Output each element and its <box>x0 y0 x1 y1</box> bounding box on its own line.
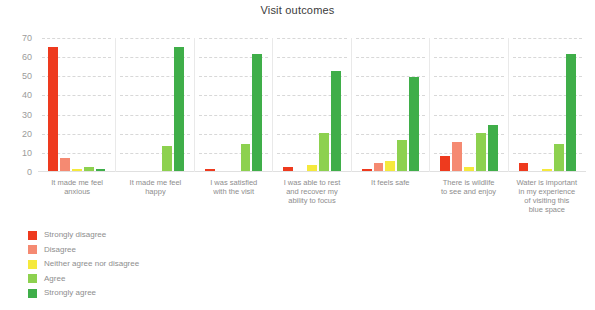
legend-swatch-icon <box>28 289 37 298</box>
panel-baseline <box>116 171 193 172</box>
category-label: There is wildlifeto see and enjoy <box>429 178 507 224</box>
panel-baseline <box>352 171 429 172</box>
legend-label: Agree <box>44 275 65 283</box>
legend-label: Strongly disagree <box>44 231 106 239</box>
bar[interactable] <box>241 144 251 171</box>
bar[interactable] <box>331 71 341 171</box>
bar[interactable] <box>283 167 293 171</box>
panel-baseline <box>509 171 586 172</box>
bar[interactable] <box>84 167 94 171</box>
y-tick-label: 0 <box>27 168 32 177</box>
y-axis: 010203040506070 <box>0 38 36 172</box>
category-label-line: I was satisfied <box>197 178 271 187</box>
bar[interactable] <box>519 163 529 171</box>
legend-item[interactable]: Agree <box>28 272 139 287</box>
category-label-line: It made me feel <box>118 178 192 187</box>
category-label-line: It feels safe <box>353 178 427 187</box>
bar[interactable] <box>488 125 498 171</box>
bar[interactable] <box>409 77 419 171</box>
category-label-line: It made me feel <box>40 178 114 187</box>
bar[interactable] <box>96 169 106 171</box>
category-label-line: in my experience <box>510 187 584 196</box>
legend-swatch-icon <box>28 231 37 240</box>
category-label-line: ability to focus <box>275 196 349 205</box>
chart-panel <box>115 38 193 172</box>
legend-label: Neither agree nor disagree <box>44 260 139 268</box>
category-label-line: I was able to rest <box>275 178 349 187</box>
category-label-line: Water is important <box>510 178 584 187</box>
legend-swatch-icon <box>28 260 37 269</box>
category-label-line: There is wildlife <box>431 178 505 187</box>
plot-area <box>38 38 586 172</box>
chart-panel <box>351 38 429 172</box>
chart-panel <box>272 38 350 172</box>
category-label: I was satisfiedwith the visit <box>195 178 273 224</box>
y-tick-label: 40 <box>22 91 32 100</box>
category-label: Water is importantin my experienceof vis… <box>508 178 586 224</box>
y-tick-label: 20 <box>22 129 32 138</box>
category-label-line: of visiting this <box>510 196 584 205</box>
bar[interactable] <box>319 133 329 171</box>
y-tick-label: 10 <box>22 148 32 157</box>
category-label: It feels safe <box>351 178 429 224</box>
bar[interactable] <box>397 140 407 171</box>
category-label-line: anxious <box>40 187 114 196</box>
legend-label: Disagree <box>44 246 76 254</box>
legend-item[interactable]: Disagree <box>28 243 139 258</box>
bar[interactable] <box>162 146 172 171</box>
chart-root: Visit outcomes 010203040506070 It made m… <box>0 0 595 310</box>
category-label: It made me feelhappy <box>116 178 194 224</box>
y-tick-label: 50 <box>22 72 32 81</box>
bar[interactable] <box>554 144 564 171</box>
bar-group <box>38 38 115 171</box>
legend-label: Strongly agree <box>44 289 96 297</box>
bar[interactable] <box>307 165 317 171</box>
category-label-line: with the visit <box>197 187 271 196</box>
chart-panel <box>38 38 115 172</box>
legend: Strongly disagreeDisagreeNeither agree n… <box>28 228 139 301</box>
bar[interactable] <box>566 54 576 171</box>
bar[interactable] <box>476 133 486 171</box>
chart-panel <box>508 38 586 172</box>
legend-swatch-icon <box>28 274 37 283</box>
category-label: It made me feelanxious <box>38 178 116 224</box>
bar-group <box>430 38 507 171</box>
bar[interactable] <box>452 142 462 171</box>
chart-title: Visit outcomes <box>0 4 595 16</box>
y-tick-label: 60 <box>22 53 32 62</box>
panel-baseline <box>430 171 507 172</box>
category-axis-labels: It made me feelanxiousIt made me feelhap… <box>38 178 586 224</box>
legend-item[interactable]: Strongly agree <box>28 286 139 301</box>
chart-panel <box>429 38 507 172</box>
category-label-line: blue space <box>510 205 584 214</box>
bar-group <box>195 38 272 171</box>
bar-group <box>273 38 350 171</box>
legend-swatch-icon <box>28 245 37 254</box>
chart-panel <box>194 38 272 172</box>
category-label-line: to see and enjoy <box>431 187 505 196</box>
bar[interactable] <box>205 169 215 171</box>
bar[interactable] <box>464 167 474 171</box>
panel-baseline <box>195 171 272 172</box>
bar[interactable] <box>60 158 70 171</box>
panel-baseline <box>38 171 115 172</box>
bar[interactable] <box>174 47 184 171</box>
y-tick-label: 30 <box>22 110 32 119</box>
bar[interactable] <box>72 169 82 171</box>
legend-item[interactable]: Strongly disagree <box>28 228 139 243</box>
y-tick-label: 70 <box>22 34 32 43</box>
category-label-line: and recover my <box>275 187 349 196</box>
bar-group <box>509 38 586 171</box>
legend-item[interactable]: Neither agree nor disagree <box>28 257 139 272</box>
bar[interactable] <box>374 163 384 171</box>
bar[interactable] <box>385 161 395 171</box>
bar-group <box>352 38 429 171</box>
bar-group <box>116 38 193 171</box>
bar[interactable] <box>362 169 372 171</box>
panel-baseline <box>273 171 350 172</box>
bar[interactable] <box>440 156 450 171</box>
bar[interactable] <box>252 54 262 171</box>
bar[interactable] <box>48 47 58 171</box>
category-label-line: happy <box>118 187 192 196</box>
bar[interactable] <box>542 169 552 171</box>
